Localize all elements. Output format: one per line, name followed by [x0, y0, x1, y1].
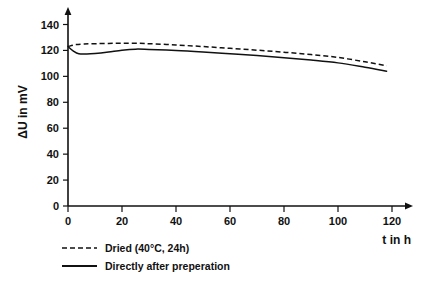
y-tick-label: 120 [41, 44, 59, 56]
legend-label-dried: Dried (40°C, 24h) [105, 242, 189, 254]
y-axis-ticks: 020406080100120140 [41, 19, 68, 213]
x-tick-label: 40 [170, 215, 182, 227]
x-tick-label: 100 [329, 215, 347, 227]
y-axis-arrowhead [65, 7, 72, 15]
chart-container: 020406080100120140 020406080100120 ΔU in… [0, 0, 430, 286]
y-tick-label: 140 [41, 19, 59, 31]
x-tick-label: 0 [65, 215, 71, 227]
series-line-directly-after-preperation [68, 47, 387, 72]
x-tick-label: 20 [116, 215, 128, 227]
y-tick-label: 80 [47, 96, 59, 108]
x-axis-arrowhead [405, 203, 413, 210]
series-group [68, 43, 387, 71]
y-axis-title: ΔU in mV [16, 85, 30, 138]
y-tick-label: 100 [41, 70, 59, 82]
y-tick-label: 60 [47, 122, 59, 134]
legend-label-directly-after-preperation: Directly after preperation [105, 260, 230, 272]
x-axis-ticks: 020406080100120 [65, 206, 401, 227]
y-tick-label: 40 [47, 148, 59, 160]
x-tick-label: 120 [383, 215, 401, 227]
axes-group [65, 7, 413, 209]
legend: Dried (40°C, 24h) Directly after prepera… [62, 242, 230, 272]
x-tick-label: 80 [278, 215, 290, 227]
y-tick-label: 0 [53, 200, 59, 212]
y-tick-label: 20 [47, 174, 59, 186]
x-axis-title: t in h [382, 233, 411, 247]
x-tick-label: 60 [224, 215, 236, 227]
delta-u-vs-time-line-chart: 020406080100120140 020406080100120 ΔU in… [0, 0, 430, 286]
